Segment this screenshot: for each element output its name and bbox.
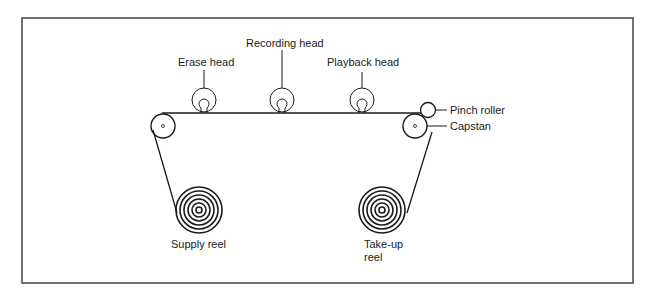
label-erase-head: Erase head — [178, 56, 234, 68]
supply-reel — [176, 187, 222, 233]
label-supply-reel: Supply reel — [171, 238, 226, 250]
label-recording-head: Recording head — [246, 37, 324, 49]
label-capstan: Capstan — [450, 120, 491, 132]
erase-head — [192, 70, 216, 113]
label-takeup-reel-1: Take-up — [364, 238, 403, 250]
label-takeup-reel-2: reel — [364, 251, 382, 263]
pinch-roller — [421, 103, 436, 118]
capstan — [403, 114, 427, 138]
takeup-reel — [359, 187, 405, 233]
recording-head — [270, 50, 294, 113]
label-playback-head: Playback head — [327, 56, 399, 68]
label-pinch-roller: Pinch roller — [450, 104, 505, 116]
playback-head — [350, 72, 374, 113]
tape-transport-diagram: Erase head Recording head Playback head … — [0, 0, 650, 299]
idler-roller — [151, 114, 175, 138]
